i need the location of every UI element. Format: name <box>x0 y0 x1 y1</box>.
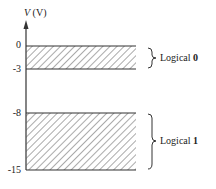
tick-label-minus-8: -8 <box>1 108 21 118</box>
tick-label-minus-3: -3 <box>1 64 21 74</box>
logical-1-region <box>26 113 136 170</box>
axis-unit: (V) <box>33 7 47 18</box>
logical-0-region <box>26 46 136 69</box>
voltage-level-diagram <box>0 0 216 189</box>
tick-label-0: 0 <box>1 40 21 50</box>
logical-0-label: Logical 0 <box>160 53 198 63</box>
axis-arrow-icon <box>24 20 29 29</box>
logical-0-value: 0 <box>193 52 198 63</box>
logical-0-brace-icon <box>148 48 156 68</box>
logical-1-value: 1 <box>193 135 198 146</box>
axis-title: V (V) <box>24 8 47 18</box>
axis-variable: V <box>24 7 30 18</box>
tick-label-minus-15: -15 <box>1 165 21 175</box>
logical-1-label: Logical 1 <box>160 136 198 146</box>
logical-1-brace-icon <box>148 114 156 169</box>
